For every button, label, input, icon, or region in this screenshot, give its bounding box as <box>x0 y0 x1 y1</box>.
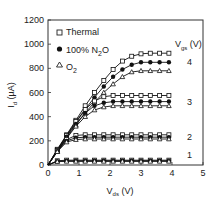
square-marker <box>158 51 162 55</box>
y-tick-label: 400 <box>29 112 44 122</box>
square-marker <box>130 94 134 98</box>
series-line <box>48 62 169 165</box>
circle-marker <box>157 60 161 64</box>
square-marker <box>111 68 115 72</box>
x-tick-label: 4 <box>169 168 174 178</box>
series-line <box>48 71 169 165</box>
triangle-marker-icon <box>57 62 63 67</box>
square-marker-icon <box>57 30 62 35</box>
y-axis-label: Id (µA) <box>6 82 18 108</box>
y-tick-label: 0 <box>39 160 44 170</box>
legend: Thermal 100% N2O O2 <box>57 27 109 74</box>
circle-marker <box>120 67 124 71</box>
vgs-value-label: 3 <box>187 97 192 107</box>
square-marker <box>167 94 171 98</box>
y-tick-label: 1000 <box>24 39 44 49</box>
square-marker <box>111 94 115 98</box>
y-tick-label: 600 <box>29 88 44 98</box>
circle-marker <box>139 60 143 64</box>
vgs-value-label: 2 <box>187 132 192 142</box>
square-marker <box>130 54 134 58</box>
square-marker <box>167 51 171 55</box>
legend-o2: O2 <box>66 62 77 74</box>
circle-marker <box>102 84 106 88</box>
x-axis-label: Vds (V) <box>107 186 134 197</box>
chart-svg: 0123450200400600800100012001234 Thermal … <box>0 0 218 206</box>
vgs-value-label: 4 <box>187 57 192 67</box>
x-tick-label: 0 <box>45 168 50 178</box>
square-marker <box>93 91 97 95</box>
vgs-value-label: 1 <box>187 150 192 160</box>
vgs-title: Vgs (V) <box>175 39 202 51</box>
triangle-marker <box>120 74 125 78</box>
square-marker <box>148 51 152 55</box>
x-tick-label: 1 <box>76 168 81 178</box>
square-marker <box>102 95 106 99</box>
square-marker <box>120 94 124 98</box>
y-tick-label: 1200 <box>24 15 44 25</box>
square-marker <box>158 94 162 98</box>
circle-marker <box>148 60 152 64</box>
circle-marker-icon <box>57 46 62 51</box>
square-marker <box>120 59 124 63</box>
circle-marker <box>167 60 171 64</box>
square-marker <box>139 52 143 56</box>
square-marker <box>139 94 143 98</box>
x-tick-label: 5 <box>200 168 205 178</box>
circle-marker <box>111 75 115 79</box>
legend-thermal: Thermal <box>66 27 99 37</box>
legend-n2o: 100% N2O <box>66 45 109 57</box>
square-marker <box>93 99 97 103</box>
square-marker <box>83 107 87 111</box>
x-tick-label: 3 <box>138 168 143 178</box>
square-marker <box>148 94 152 98</box>
circle-marker <box>130 63 134 67</box>
y-tick-label: 200 <box>29 136 44 146</box>
square-marker <box>102 78 106 82</box>
x-tick-label: 2 <box>107 168 112 178</box>
iv-characteristics-chart: 0123450200400600800100012001234 Thermal … <box>0 0 218 206</box>
y-tick-label: 800 <box>29 63 44 73</box>
